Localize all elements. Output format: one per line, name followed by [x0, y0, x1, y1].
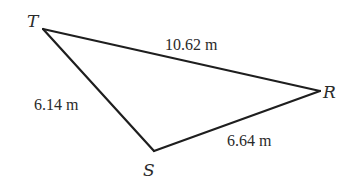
side-TS: [43, 29, 154, 151]
vertex-label-T: T: [27, 11, 40, 31]
side-label-SR: 6.64 m: [227, 132, 272, 149]
side-label-TS: 6.14 m: [34, 96, 79, 113]
vertex-label-R: R: [322, 82, 336, 102]
vertex-label-S: S: [143, 160, 155, 180]
side-label-TR: 10.62 m: [165, 36, 218, 53]
triangle-diagram: T R S 10.62 m 6.14 m 6.64 m: [0, 0, 359, 187]
